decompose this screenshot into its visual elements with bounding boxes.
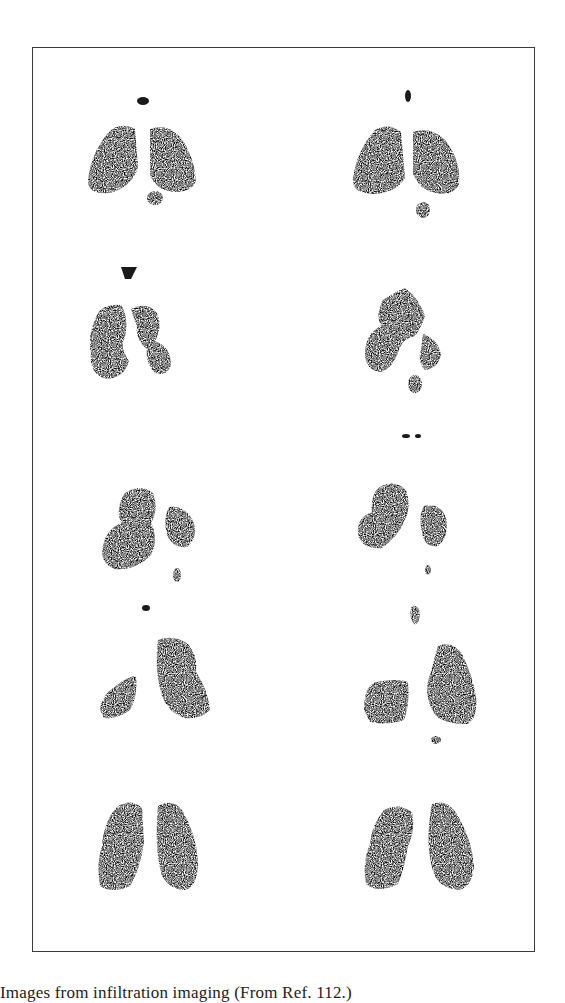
lung-scan-r3-c2 bbox=[350, 430, 465, 580]
lung-scan-r5-c1 bbox=[90, 790, 210, 905]
lung-scan-r3-c1 bbox=[95, 475, 210, 590]
lung-scan-r5-c2 bbox=[358, 790, 483, 905]
lung-scan-r2-c2 bbox=[355, 278, 460, 398]
lung-scan-r1-c1 bbox=[80, 95, 205, 215]
lung-scan-r4-c1 bbox=[90, 600, 220, 730]
lung-scan-r4-c2 bbox=[358, 600, 488, 750]
lung-scan-r1-c2 bbox=[345, 88, 470, 223]
lung-scan-r2-c1 bbox=[85, 265, 185, 390]
figure-caption: Images from infiltration imaging (From R… bbox=[0, 983, 565, 1003]
